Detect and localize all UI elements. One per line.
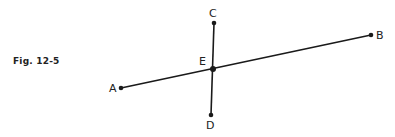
label-b: B (376, 29, 384, 42)
segment-ab (121, 35, 371, 88)
point-c (212, 21, 217, 26)
geometry-diagram: Fig. 12-5 A B C D E (0, 0, 395, 137)
point-e-intersection (210, 66, 216, 72)
point-a (119, 86, 124, 91)
point-d (209, 113, 214, 118)
point-b (369, 33, 374, 38)
figure-caption: Fig. 12-5 (13, 56, 60, 66)
diagram-svg: A B C D E (0, 0, 395, 137)
label-d: D (206, 119, 214, 132)
label-c: C (209, 7, 217, 20)
label-e: E (199, 55, 206, 68)
label-a: A (109, 82, 117, 95)
